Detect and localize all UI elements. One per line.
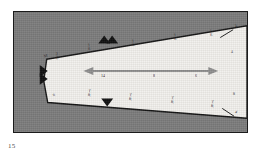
figure-caption: 15 [8,142,15,150]
dimension-label-2: 8 [153,74,155,78]
figure-page: M 2 E 1 E 1 E 1 E 1 E 4 8 6 T R T R T R … [0,0,261,157]
figure-frame [13,11,248,133]
label-right-1: 4 [231,50,233,55]
label-right-2: 8 [233,92,235,97]
label-bottom-1: T R [88,89,91,98]
label-bottom-2: T R [129,93,132,102]
dimension-label-3: 6 [195,74,197,78]
dimension-label-1: 14 [101,74,105,78]
station-marker-top [98,36,118,44]
label-bottom-4: T R [211,100,214,109]
label-bottom-3: T R [171,96,174,105]
